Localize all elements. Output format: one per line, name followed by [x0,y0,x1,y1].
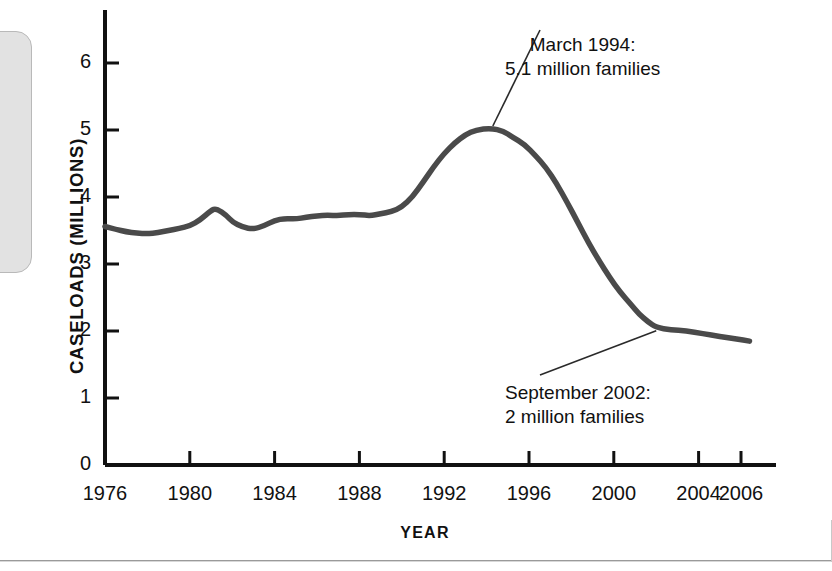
annotation-leader-line-low [540,331,656,375]
annotation-low-line2: 2 million families [505,405,651,429]
x-tick-label-1980: 1980 [150,482,230,505]
x-tick-label-2006: 2006 [701,482,781,505]
y-tick-label-4: 4 [57,184,91,207]
y-tick-label-2: 2 [57,318,91,341]
x-tick-label-1996: 1996 [489,482,569,505]
x-tick-label-1984: 1984 [235,482,315,505]
x-tick-label-1976: 1976 [65,482,145,505]
data-series-line [105,129,750,341]
x-tick-label-1988: 1988 [319,482,399,505]
page-bottom-rule [0,560,832,562]
chart-page: CASELOADS (MILLIONS) YEAR 0123456 197619… [0,0,832,571]
x-tick-label-2000: 2000 [574,482,654,505]
y-tick-label-1: 1 [57,385,91,408]
annotation-low-line1: September 2002: [505,381,651,405]
y-tick-label-6: 6 [57,50,91,73]
annotation-peak-line2: 5.1 million families [505,57,660,81]
x-tick-label-1992: 1992 [404,482,484,505]
y-tick-label-3: 3 [57,251,91,274]
y-tick-label-0: 0 [57,452,91,475]
x-axis-ticks [190,451,741,465]
x-axis-title: YEAR [105,524,745,542]
y-tick-label-5: 5 [57,117,91,140]
annotation-peak: March 1994: 5.1 million families [505,33,660,82]
annotation-peak-line1: March 1994: [505,33,660,57]
annotation-low: September 2002: 2 million families [505,381,651,430]
